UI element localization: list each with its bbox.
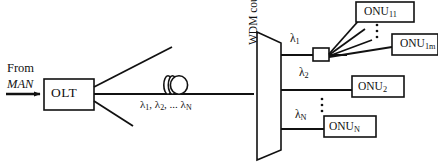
onu-label-2: ONU2: [358, 81, 387, 94]
ellipsis-dot: [376, 30, 379, 33]
olt-branch-down: [94, 101, 133, 126]
branch-label-lambda2: λ2: [299, 67, 309, 80]
ellipsis-dot: [321, 98, 324, 101]
feeder-wavelengths-label: λ1, λ2, ... λN: [140, 99, 192, 112]
source-label-from: From: [7, 62, 34, 75]
onu-label-N: ONUN: [329, 121, 360, 134]
fiber-spool-icon: [170, 76, 187, 94]
branch-label-lambda1: λ1: [290, 33, 300, 46]
splitter-box: [313, 48, 329, 61]
onu-label-11: ONU11: [364, 6, 397, 19]
ellipsis-dot: [321, 110, 324, 113]
olt-label: OLT: [51, 86, 77, 100]
source-label-man: MAN: [7, 78, 33, 91]
branch-label-lambdaN: λN: [295, 109, 307, 122]
wdm-coupler-shape: [257, 32, 281, 160]
wdm-pon-diagram: From MAN OLT λ1, λ2, ... λN WDM coupler …: [0, 0, 438, 165]
wdm-coupler-label: WDM coupler: [247, 0, 261, 45]
ellipsis-dot: [376, 36, 379, 39]
ellipsis-dot: [321, 104, 324, 107]
olt-branch-up: [94, 47, 172, 87]
ellipsis-dot: [376, 24, 379, 27]
onu-label-1m: ONU1m: [400, 38, 435, 51]
